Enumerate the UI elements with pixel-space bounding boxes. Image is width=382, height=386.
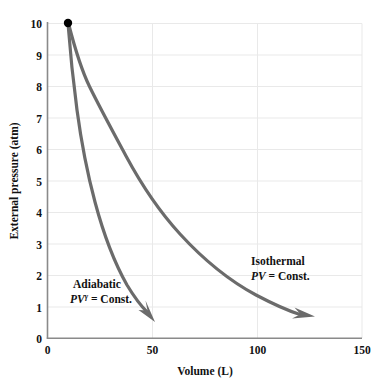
- y-tick-7: 7: [36, 113, 42, 125]
- x-tick-100: 100: [249, 344, 267, 356]
- y-tick-3: 3: [36, 239, 42, 251]
- adiabatic-label-equation: PVγ = Const.: [70, 292, 132, 305]
- start-point-marker: [64, 19, 72, 27]
- y-tick-1: 1: [36, 302, 42, 314]
- x-tick-0: 0: [45, 344, 51, 356]
- x-tick-150: 150: [353, 344, 371, 356]
- y-axis-title: External pressure (atm): [8, 122, 21, 239]
- pv-diagram-figure: 10 9 8 7 6 5 4 3 2 1 0 0 50 100 150 Volu…: [0, 0, 382, 386]
- y-tick-10: 10: [31, 18, 43, 30]
- y-tick-4: 4: [36, 207, 42, 219]
- x-tick-50: 50: [147, 344, 159, 356]
- x-axis-title: Volume (L): [177, 365, 233, 378]
- isothermal-label-name: Isothermal: [251, 255, 305, 267]
- y-tick-6: 6: [36, 144, 42, 156]
- pv-diagram-svg: 10 9 8 7 6 5 4 3 2 1 0 0 50 100 150 Volu…: [0, 0, 382, 386]
- adiabatic-eq-tail: = Const.: [88, 293, 132, 305]
- y-tick-0: 0: [36, 333, 42, 345]
- adiabatic-eq-base: PV: [70, 293, 86, 305]
- isothermal-label-equation: PV = Const.: [251, 270, 310, 282]
- isothermal-eq-base: PV: [251, 270, 267, 282]
- y-tick-5: 5: [36, 176, 42, 188]
- y-tick-9: 9: [36, 50, 42, 62]
- adiabatic-label-name: Adiabatic: [73, 278, 121, 290]
- isothermal-eq-tail: = Const.: [266, 270, 310, 282]
- y-tick-2: 2: [36, 270, 42, 282]
- chart-background: [0, 0, 382, 386]
- y-tick-8: 8: [36, 81, 42, 93]
